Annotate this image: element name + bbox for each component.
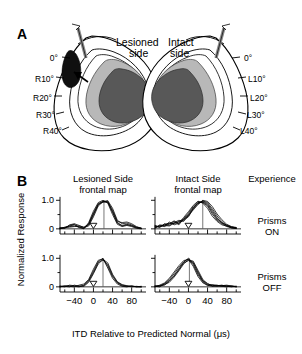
x-tick-label-intact-prisms-off-1: 0 (186, 295, 191, 306)
x-tick-label-lesioned-prisms-off-2: 40 (107, 295, 118, 306)
x-tick-label-intact-prisms-off-2: 40 (202, 295, 213, 306)
angle-label-right-l10: L10° (248, 74, 266, 84)
panel-a-anatomy: Lesioned side Intact side 0° R10° R20° R… (0, 10, 302, 170)
plot-lesioned-prisms-off (56, 255, 146, 292)
angle-label-left-r10: R10° (35, 74, 54, 84)
curve-lesioned-prisms-off-unit-1 (60, 258, 141, 287)
column-header-lesioned: Lesioned Side frontal map (57, 174, 149, 195)
y-tick-label-lesioned-prisms-on-1: 1.0 (41, 195, 54, 205)
angle-label-left-r30: R30° (36, 110, 55, 120)
panel-a-svg: Lesioned side Intact side 0° R10° R20° R… (0, 10, 302, 170)
curve-lesioned-prisms-off-unit-4 (60, 260, 141, 287)
angle-label-right-0: 0° (244, 53, 252, 63)
curve-lesioned-prisms-off-unit-2 (60, 259, 141, 286)
x-tick-label-lesioned-prisms-off-1: 0 (91, 295, 96, 306)
y-tick-label-lesioned-prisms-off-1: 1.0 (41, 253, 54, 263)
predicted-normal-marker-lesioned-prisms-off (90, 281, 97, 286)
angle-label-right-l40: L40° (240, 126, 258, 136)
y-tick-label-lesioned-prisms-off-0: 0 (49, 282, 54, 292)
curve-lesioned-prisms-on-unit-2 (60, 201, 141, 229)
panel-b-plots: Lesioned Side frontal map Intact Side fr… (0, 172, 302, 354)
plots-svg: 01.001.0−4004080−4004080 (0, 172, 302, 327)
y-axis-title: Normalized Response (15, 180, 26, 300)
column-header-intact: Intact Side frontal map (152, 174, 244, 195)
plot-intact-prisms-off (151, 255, 241, 292)
x-tick-label-lesioned-prisms-off-3: 80 (126, 295, 137, 306)
intact-side-title-line2: side (170, 47, 189, 59)
plot-lesioned-prisms-on (56, 197, 146, 234)
row-label-prisms-on: Prisms ON (243, 216, 301, 237)
x-tick-label-lesioned-prisms-off-0: −40 (66, 295, 82, 306)
curve-lesioned-prisms-off-unit-3 (60, 259, 141, 287)
curve-intact-prisms-off-unit-5 (155, 261, 236, 287)
angle-label-left-r20: R20° (33, 93, 52, 103)
angle-label-right-l20: L20° (250, 93, 268, 103)
predicted-normal-marker-lesioned-prisms-on (90, 223, 97, 228)
figure-root: A (0, 0, 302, 354)
predicted-normal-marker-intact-prisms-off (185, 281, 192, 286)
x-axis-title: ITD Relative to Predicted Normal (μs) (0, 328, 302, 339)
lesioned-side-title-line2: side (129, 47, 148, 59)
x-tick-label-intact-prisms-off-0: −40 (161, 295, 177, 306)
plot-intact-prisms-on (151, 197, 241, 234)
predicted-normal-marker-intact-prisms-on (185, 223, 192, 228)
angle-label-left-0: 0° (50, 53, 58, 63)
y-tick-label-lesioned-prisms-on-0: 0 (49, 224, 54, 234)
angle-label-left-r40: R40° (43, 126, 62, 136)
column-header-experience: Experience (243, 174, 301, 185)
x-tick-label-intact-prisms-off-3: 80 (221, 295, 232, 306)
row-label-prisms-off: Prisms OFF (243, 272, 301, 293)
angle-label-right-l30: L30° (247, 110, 265, 120)
